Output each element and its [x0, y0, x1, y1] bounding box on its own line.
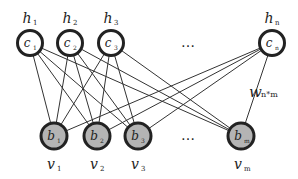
hidden-ellipsis: …: [181, 34, 195, 50]
visible-node-3: b3v3: [125, 123, 151, 173]
edge-h2-v2: [70, 43, 97, 136]
edges: [30, 43, 272, 136]
visible-node-2: b2v2: [84, 123, 110, 173]
edge-h3-v3: [111, 43, 138, 136]
visible-node-m: bmvm: [228, 123, 254, 173]
visible-label-sub: m: [244, 165, 251, 173]
hidden-label-sub: 3: [114, 19, 118, 27]
visible-label: v: [131, 156, 139, 172]
visible-node-1: b1v1: [41, 123, 67, 173]
visible-ellipsis: …: [181, 127, 195, 143]
node-param: b: [234, 129, 242, 143]
node-param: c: [24, 36, 31, 50]
visible-layer: b1v1b2v2b3v3bmvm: [41, 123, 254, 173]
weight-subscript: n*m: [261, 90, 278, 99]
node-param-sub: 2: [100, 137, 104, 144]
hidden-node-2: c2h2: [58, 10, 83, 56]
hidden-label: h: [103, 10, 112, 26]
node-param-sub: n: [275, 44, 279, 51]
hidden-label-sub: 1: [33, 19, 37, 27]
node-param: b: [90, 129, 98, 143]
visible-label: v: [90, 156, 98, 172]
hidden-label: h: [22, 10, 31, 26]
hidden-label: h: [62, 10, 71, 26]
visible-label: v: [234, 156, 242, 172]
hidden-label: h: [264, 10, 273, 26]
node-param: c: [105, 36, 112, 50]
node-param: b: [131, 129, 139, 143]
visible-label-sub: 3: [141, 165, 145, 173]
hidden-label-sub: 2: [73, 19, 77, 27]
hidden-node-n: cnhn: [260, 10, 285, 56]
visible-label-sub: 1: [57, 165, 61, 173]
node-param-sub: m: [244, 137, 250, 144]
visible-label-sub: 2: [100, 165, 104, 173]
hidden-label-sub: n: [275, 19, 280, 27]
hidden-layer: c1h1c2h2c3h3cnhn: [18, 10, 285, 56]
node-param-sub: 1: [57, 137, 61, 144]
node-param-sub: 1: [33, 44, 37, 51]
node-param-sub: 3: [141, 137, 145, 144]
edge-h3-vm: [111, 43, 241, 136]
weight-label: w n*m: [249, 83, 278, 101]
node-param-sub: 2: [73, 44, 77, 51]
hidden-node-3: c3h3: [99, 10, 124, 56]
hidden-node-1: c1h1: [18, 10, 43, 56]
visible-label: v: [47, 156, 55, 172]
node-param: c: [266, 36, 273, 50]
node-param-sub: 3: [114, 44, 118, 51]
node-param: b: [47, 129, 55, 143]
rbm-diagram: c1h1c2h2c3h3cnhn b1v1b2v2b3v3bmvm … … w …: [0, 0, 298, 179]
node-param: c: [64, 36, 71, 50]
